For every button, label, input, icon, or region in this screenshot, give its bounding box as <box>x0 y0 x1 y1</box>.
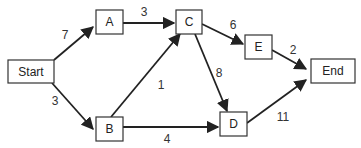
edge-label-b-c: 1 <box>158 78 165 92</box>
node-start: Start <box>8 60 54 83</box>
edge-b-c <box>111 34 180 117</box>
svg-text:D: D <box>229 117 238 131</box>
svg-text:B: B <box>105 122 113 136</box>
node-b: B <box>96 117 123 141</box>
node-c: C <box>176 10 202 34</box>
edge-label-b-d: 4 <box>164 132 171 146</box>
node-end: End <box>311 59 355 83</box>
network-diagram: 7 3 3 1 4 6 8 2 11 Start A B C D E End <box>0 0 361 148</box>
edge-start-a <box>54 27 93 60</box>
edge-label-a-c: 3 <box>141 5 148 19</box>
svg-text:Start: Start <box>18 65 44 79</box>
svg-text:C: C <box>185 15 194 29</box>
svg-text:A: A <box>105 15 113 29</box>
edge-label-c-d: 8 <box>216 66 223 80</box>
edge-label-d-end: 11 <box>277 110 290 124</box>
edge-label-start-b: 3 <box>52 94 59 108</box>
edge-label-start-a: 7 <box>62 28 69 42</box>
svg-text:End: End <box>322 64 343 78</box>
edge-label-e-end: 2 <box>290 43 297 57</box>
edge-c-e <box>202 24 243 44</box>
node-a: A <box>96 10 123 34</box>
node-d: D <box>220 112 247 136</box>
edge-label-c-e: 6 <box>230 18 237 32</box>
node-e: E <box>245 35 272 59</box>
svg-text:E: E <box>254 40 262 54</box>
